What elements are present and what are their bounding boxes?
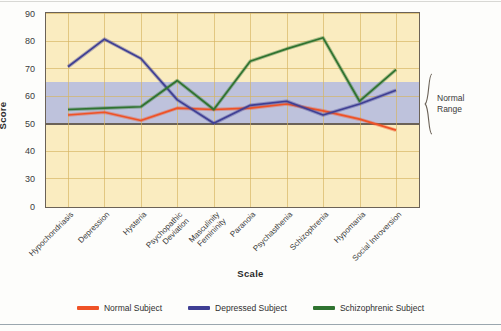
y-axis-ticks: 030405060708090 [0,12,41,208]
legend-label-2: Schizophrenic Subject [340,303,424,313]
legend-item-2: Schizophrenic Subject [313,303,424,313]
bottom-divider [0,324,501,325]
legend-swatch-0 [77,306,99,310]
x-axis-title: Scale [0,268,501,279]
normal-range-line-1: Normal [437,93,464,104]
legend-label-0: Normal Subject [104,303,162,313]
series-lines [46,13,418,206]
y-tick-label-80: 80 [25,36,41,46]
legend-item-0: Normal Subject [77,303,162,313]
mmpi-profile-chart: Score 030405060708090 HypochondriasisDep… [0,0,501,331]
chart-legend: Normal SubjectDepressed SubjectSchizophr… [0,300,501,316]
series-halo-2 [68,38,396,110]
normal-range-annotation: Normal Range [424,72,498,136]
legend-swatch-1 [188,306,210,310]
curly-brace-icon [424,73,433,135]
series-line-schizophrenic-subject [68,38,396,110]
legend-swatch-2 [313,306,335,310]
top-divider [0,1,501,2]
y-tick-label-50: 50 [25,119,41,129]
plot-area [45,12,420,208]
legend-label-1: Depressed Subject [215,303,287,313]
y-tick-label-70: 70 [25,64,41,74]
y-tick-label-40: 40 [25,146,41,156]
normal-range-label: Normal Range [437,93,464,115]
normal-range-line-2: Range [437,104,464,115]
y-tick-label-0: 0 [30,202,41,212]
legend-item-1: Depressed Subject [188,303,287,313]
y-tick-label-90: 90 [25,9,41,19]
y-tick-label-60: 60 [25,91,41,101]
y-tick-label-30: 30 [25,174,41,184]
